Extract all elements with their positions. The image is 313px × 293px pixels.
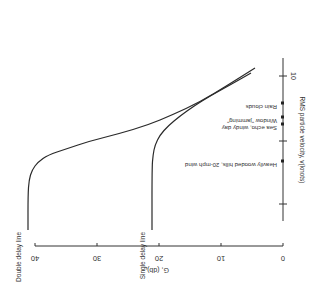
- velocity-axis-label: RMS particle velocity, v(knots): [298, 97, 306, 184]
- marker-label: Rain clouds: [246, 104, 277, 110]
- marker-label: Sea echo, windy day: [222, 125, 277, 131]
- marker-square: [281, 102, 284, 105]
- marker-label: Window "jamming": [227, 118, 277, 124]
- velocity-axis-ticks: 10: [279, 72, 297, 204]
- marker-square: [281, 160, 284, 163]
- g-tick-label: 40: [31, 254, 39, 263]
- markers: Rain cloudsWindow "jamming"Sea echo, win…: [185, 102, 284, 169]
- velocity-tick-label: 10: [290, 72, 297, 80]
- g-tick-label: 0: [281, 254, 285, 263]
- g-tick-label: 20: [155, 254, 163, 263]
- curve-double-delay-line: [28, 68, 255, 230]
- curves: Double delay lineSingle delay line: [15, 68, 255, 282]
- marker-square: [281, 123, 284, 126]
- curve-label: Double delay line: [15, 232, 23, 282]
- marker-label: Heavily wooded hills, 20-mph wind: [185, 162, 277, 168]
- g-axis-label: G, (db): [147, 266, 169, 274]
- g-tick-label: 30: [93, 254, 101, 263]
- curve-single-delay-line: [152, 73, 251, 230]
- curve-label: Single delay line: [139, 232, 147, 280]
- g-tick-label: 10: [217, 254, 225, 263]
- marker-square: [281, 116, 284, 119]
- rotated-line-chart: 403020100 G, (db) 10 RMS particle veloci…: [0, 0, 313, 293]
